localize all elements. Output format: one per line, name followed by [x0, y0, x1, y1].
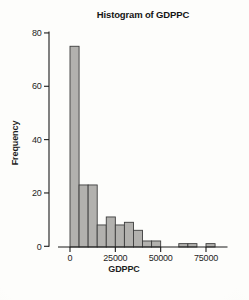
histogram-bar: [106, 217, 115, 247]
histogram-figure: Histogram of GDPPC Frequency 02040608002…: [0, 0, 236, 300]
histogram-bar: [97, 225, 106, 247]
histogram-chart: 0204060800250005000075000: [0, 0, 236, 300]
histogram-bar: [124, 222, 133, 247]
x-tick-label: 50000: [149, 253, 173, 263]
histogram-bar: [70, 46, 79, 247]
y-tick-label: 20: [32, 188, 42, 198]
histogram-bar: [79, 185, 88, 247]
x-axis-label: GDPPC: [49, 264, 199, 274]
y-tick-label: 60: [32, 81, 42, 91]
histogram-bar: [88, 185, 97, 247]
histogram-bar: [115, 225, 124, 247]
x-tick-label: 0: [68, 253, 73, 263]
x-tick-label: 25000: [103, 253, 127, 263]
x-tick-label: 75000: [194, 253, 218, 263]
histogram-bar: [152, 241, 161, 247]
y-tick-label: 80: [32, 28, 42, 38]
y-tick-label: 0: [37, 242, 42, 252]
y-tick-label: 40: [32, 135, 42, 145]
histogram-bar: [143, 241, 152, 247]
histogram-bar: [133, 230, 142, 247]
